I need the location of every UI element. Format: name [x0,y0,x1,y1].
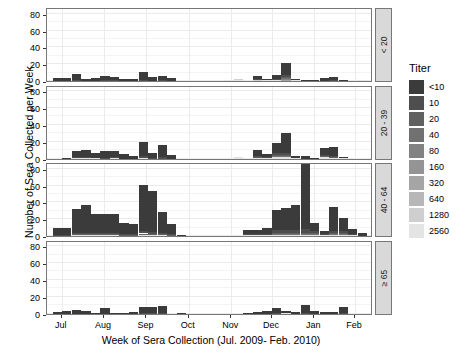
bar-segment [329,80,338,81]
bar-segment [281,77,290,78]
bar-segment [234,79,243,80]
bar-segment [100,308,109,314]
bar-segment [72,74,81,80]
bar-segment [139,231,148,234]
legend-item-label: 20 [429,114,439,124]
bar [119,313,128,314]
grid-line-vertical [231,164,232,236]
bar-segment [62,228,71,235]
bar-segment [329,207,338,231]
bar-segment [310,234,319,235]
bar-segment [91,153,100,157]
bar [253,230,262,236]
grid-line-horizontal-minor [47,270,371,271]
bar-segment [91,234,100,235]
bar [53,312,62,314]
bar-segment [81,205,90,233]
bar [281,311,290,314]
y-tick-label: 80 [30,165,40,175]
facet-strip: 40 - 64 [375,163,392,237]
facet-row: < 20 [46,8,393,82]
grid-line-vertical [231,87,232,159]
bar-segment [110,151,119,157]
bar-segment [119,235,128,236]
bar-segment [91,78,100,81]
grid-line-vertical [231,242,232,314]
bar-segment [139,156,148,158]
bar [119,223,128,236]
bar-segment [291,79,300,80]
bar-segment [243,230,252,234]
bar [110,77,119,81]
x-tick-mark [271,315,272,318]
grid-line-horizontal [47,13,371,14]
bar [281,63,290,81]
figure-root: Number of Sera Collected per Week 020406… [0,0,471,354]
bar-segment [158,235,167,236]
bar-segment [158,313,167,314]
bar-segment [320,148,329,155]
bar-segment [243,234,252,235]
grid-line-horizontal [47,279,371,280]
bar [253,312,262,314]
bar-segment [281,79,290,80]
legend-item: 640 [409,191,449,207]
bar-segment [119,79,128,81]
bar [81,79,90,81]
grid-line-horizontal [47,107,371,108]
bar-segment [62,311,71,314]
legend-items: <101020408016032064012802560 [409,79,449,239]
bar-segment [62,235,71,236]
grid-line-horizontal-minor [47,55,371,56]
bar [91,313,100,314]
bar-segment [358,233,367,236]
bar-segment [320,155,329,156]
grid-line-vertical [355,164,356,236]
bar [129,156,138,159]
bar-segment [224,80,233,81]
grid-line-vertical [104,9,105,81]
bar-segment [281,156,290,157]
bar-segment [272,313,281,314]
bar-segment [253,234,262,235]
legend-item: 20 [409,111,449,127]
bar-segment [62,158,71,159]
bar [310,80,319,81]
bar-segment [329,231,338,233]
bar [301,80,310,81]
bar-segment [281,234,290,235]
y-tick-label: 40 [30,276,40,286]
legend-color-swatch [409,128,424,142]
grid-line-horizontal-minor [47,254,371,255]
bar-segment [291,234,300,235]
bar-segment [272,234,281,236]
bar-segment [129,234,138,235]
bar [262,154,271,158]
bar [62,78,71,81]
grid-line-vertical [272,9,273,81]
bar-segment [148,313,157,314]
bar-segment [139,313,148,314]
legend-color-swatch [409,192,424,206]
bar-segment [348,235,357,236]
bar-segment [148,235,157,236]
grid-line-vertical [62,9,63,81]
x-axis-title: Week of Sera Collection (Jul. 2009- Feb.… [46,334,376,346]
bar [139,72,148,81]
bar-segment [320,156,329,157]
bar-segment [158,157,167,159]
bar-segment [81,158,90,159]
y-tick-mark [43,315,46,316]
bar-segment [291,158,300,159]
bar [310,158,319,159]
legend-item: 1280 [409,207,449,223]
y-tick-label: 0 [35,310,40,320]
bar-segment [100,158,109,159]
legend-item-label: 2560 [429,226,449,236]
grid-line-horizontal-minor [47,210,371,211]
grid-line-horizontal-minor [47,21,371,22]
bar [158,212,167,236]
bar-segment [329,77,338,80]
bar [291,79,300,81]
x-tick-label: Dec [263,320,279,330]
